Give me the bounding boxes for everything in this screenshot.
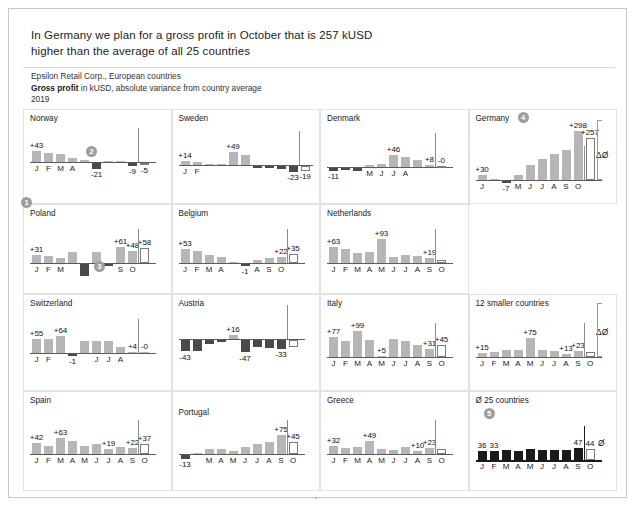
value-label: -19 [292,172,318,181]
year-line: 2019 [31,94,451,106]
bar-S [128,352,137,354]
zero-axis [30,263,156,264]
value-label: +93 [369,229,395,238]
bar-F [44,339,53,353]
bar-M [353,331,362,357]
bar-J [538,159,547,180]
bar-J [550,450,559,460]
october-separator [138,420,139,454]
bar-M [353,447,362,454]
panel-germany: GermanyJ+30-7MJJASO+298+2574ΔØ [469,109,618,204]
value-label: +23 [565,341,591,350]
bar-J [329,247,338,263]
value-label: +63 [48,428,74,437]
bar-J [104,161,113,163]
delta-bracket [597,303,602,357]
bar-J [389,450,398,454]
value-label: +45 [280,432,306,441]
bar-A [562,150,571,180]
bar-J [241,155,250,165]
bar-S [574,131,583,180]
panel-title: 12 smaller countries [476,299,549,308]
bar-S [574,448,583,460]
bar-A [265,442,274,454]
value-label: +99 [345,321,371,330]
bar-A [265,258,274,263]
bar-M [353,253,362,263]
annotation-badge-5[interactable]: 5 [484,408,495,419]
value-label: +23 [417,438,443,447]
october-separator [584,146,585,180]
value-label: -0 [132,342,158,351]
bar-J [32,255,41,263]
zero-axis [327,357,453,358]
bar-A [365,165,374,167]
value-label: +49 [220,142,246,151]
annotation-badge-1[interactable]: 1 [21,197,32,208]
bar-J [253,166,262,168]
dashboard-page: In Germany we plan for a gross profit in… [0,0,637,506]
bar-A [562,354,571,357]
bar-J [181,340,190,351]
value-label: -43 [172,353,198,362]
bar-F [193,453,202,455]
value-label: +43 [24,141,50,150]
bar-J [181,455,190,458]
october-separator [138,319,139,353]
delta-bracket [597,120,602,180]
average-symbol-label: Ø [598,438,605,448]
value-label: +30 [469,165,495,174]
bar-J [181,161,190,165]
bar-A [217,257,226,263]
value-label: -5 [132,166,158,175]
bar-S [277,257,286,263]
annotation-badge-2[interactable]: 2 [86,146,97,157]
october-separator [435,420,436,454]
bar-M [56,258,65,263]
bar-M [56,154,65,162]
panel-italy: ItalyJ+77FM+99AM+5JJAS+31O+45 [320,294,469,391]
value-label: -13 [172,460,198,469]
bar-S [425,258,434,263]
bar-F [341,341,350,357]
month-label: A [66,164,79,173]
october-separator [287,229,288,263]
bar-F [193,162,202,165]
month-label: O [138,456,151,465]
month-label: O [435,265,448,274]
bar-A [68,158,77,162]
october-separator [299,131,300,165]
bar-S [425,165,434,167]
bar-M [502,450,511,460]
month-label: A [114,355,127,364]
bar-S [128,251,137,263]
bar-S [277,166,286,168]
panel-sweden: SwedenJ+14F+49-23-19 [172,109,321,204]
bar-M [377,239,386,263]
annotation-badge-4[interactable]: 4 [518,112,529,123]
bar-M [502,350,511,357]
bar-M [80,446,89,454]
bar-M [526,449,535,460]
value-label: +46 [381,145,407,154]
bar-S [128,448,137,454]
bar-F [341,168,350,170]
month-label: O [584,462,597,471]
bar-M [229,335,238,339]
value-label: +37 [132,434,158,443]
october-separator [435,323,436,357]
bar-O [289,340,298,347]
bar-J [104,264,113,266]
annotation-badge-3[interactable]: 3 [94,261,105,272]
bar-A [562,450,571,460]
bar-M [377,356,386,358]
month-label: O [435,359,448,368]
bar-M [80,264,89,276]
bar-S [574,351,583,357]
panel-title: Belgium [179,209,209,218]
bar-M [377,449,386,454]
bar-F [193,340,202,351]
bar-A [514,175,523,180]
october-separator [287,420,288,454]
bar-M [80,341,89,353]
